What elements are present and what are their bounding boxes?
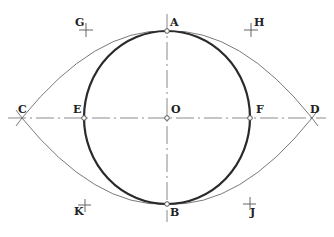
label-c: C bbox=[18, 103, 27, 116]
label-g: G bbox=[75, 16, 84, 29]
label-e: E bbox=[73, 103, 81, 116]
label-h: H bbox=[254, 16, 264, 29]
arc-tick-c-upper bbox=[16, 118, 22, 126]
construction-drawing: A B C D E F O G H K J bbox=[0, 0, 334, 237]
label-k: K bbox=[74, 205, 84, 218]
node-o bbox=[165, 116, 170, 121]
node-f bbox=[248, 116, 253, 121]
node-a bbox=[165, 29, 170, 34]
diagram-canvas: A B C D E F O G H K J bbox=[0, 0, 334, 237]
label-d: D bbox=[310, 103, 320, 116]
node-e bbox=[82, 116, 87, 121]
node-b bbox=[165, 202, 170, 207]
label-f: F bbox=[256, 103, 264, 116]
label-j: J bbox=[249, 206, 255, 219]
label-o: O bbox=[171, 103, 181, 116]
arc-tick-d-upper bbox=[312, 118, 318, 126]
label-b: B bbox=[170, 206, 179, 219]
label-a: A bbox=[169, 16, 179, 29]
